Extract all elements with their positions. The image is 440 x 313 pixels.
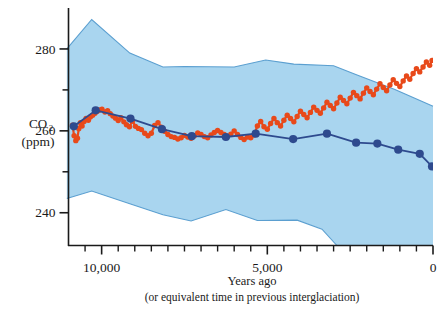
- data-point-blue: [188, 132, 196, 140]
- data-point-blue: [158, 125, 166, 133]
- data-point-orange: [265, 127, 270, 132]
- data-point-orange: [318, 111, 323, 116]
- data-point-orange: [387, 82, 392, 87]
- data-point-orange: [384, 88, 389, 93]
- data-point-orange: [155, 120, 160, 125]
- x-axis-subtitle: (or equivalent time in previous intergla…: [145, 291, 360, 304]
- chart-canvas: 280260240 10,0005,0000 CO 2 (ppm) Years …: [0, 0, 440, 313]
- data-point-orange: [427, 63, 432, 68]
- data-point-orange: [127, 124, 132, 129]
- data-point-orange: [374, 86, 379, 91]
- data-point-orange: [149, 131, 154, 136]
- data-point-orange: [331, 106, 336, 111]
- y-axis-title-subscript: 2: [49, 123, 54, 133]
- data-point-orange: [268, 121, 273, 126]
- data-point-blue: [252, 130, 260, 138]
- data-point-orange: [278, 123, 283, 128]
- data-point-blue: [70, 122, 78, 130]
- data-point-blue: [323, 130, 331, 138]
- y-axis-title-main: CO: [29, 116, 47, 131]
- data-point-orange: [321, 105, 326, 110]
- data-point-orange: [294, 114, 299, 119]
- x-tick-label: 0: [430, 260, 437, 275]
- data-point-orange: [291, 119, 296, 124]
- data-point-orange: [420, 64, 425, 69]
- data-point-orange: [347, 95, 352, 100]
- data-point-blue: [416, 150, 424, 158]
- data-point-blue: [352, 139, 360, 147]
- data-point-orange: [400, 78, 405, 83]
- x-axis-title: Years ago: [227, 274, 276, 288]
- data-point-blue: [394, 146, 402, 154]
- y-tick-label: 240: [35, 205, 56, 220]
- data-point-blue: [289, 135, 297, 143]
- data-point-orange: [344, 101, 349, 106]
- data-point-orange: [334, 100, 339, 105]
- data-point-orange: [304, 115, 309, 120]
- data-point-orange: [361, 90, 366, 95]
- data-point-orange: [357, 96, 362, 101]
- data-point-blue: [126, 114, 134, 122]
- x-tick-label: 5,000: [252, 260, 283, 275]
- data-point-orange: [281, 118, 286, 123]
- data-point-orange: [417, 69, 422, 74]
- data-point-orange: [255, 123, 260, 128]
- data-point-orange: [397, 84, 402, 89]
- data-point-orange: [258, 119, 263, 124]
- y-tick-label: 280: [35, 42, 56, 57]
- data-point-orange: [410, 71, 415, 76]
- x-tick-label: 10,000: [83, 260, 120, 275]
- co2-chart-figure: 280260240 10,0005,0000 CO 2 (ppm) Years …: [0, 0, 440, 313]
- data-point-orange: [308, 110, 313, 115]
- y-axis-title-units: (ppm): [22, 134, 55, 149]
- data-point-blue: [92, 106, 100, 114]
- data-point-blue: [373, 139, 381, 147]
- data-point-orange: [407, 77, 412, 82]
- data-point-orange: [371, 92, 376, 97]
- data-point-orange: [75, 136, 80, 141]
- data-point-blue: [222, 133, 230, 141]
